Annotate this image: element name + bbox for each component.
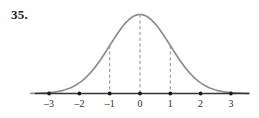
x-tick-dot (108, 92, 112, 96)
x-tick-dot (138, 92, 142, 96)
x-axis-tick-labels: –3–2–10123 (43, 98, 233, 109)
x-tick-dot (229, 92, 233, 96)
normal-curve-figure: 35. –3–2–10123 (0, 0, 259, 118)
x-tick-label: 3 (228, 98, 233, 109)
x-tick-label: –2 (73, 98, 84, 109)
x-tick-dot (78, 92, 82, 96)
x-tick-label: –3 (43, 98, 54, 109)
x-tick-label: 0 (138, 98, 143, 109)
x-tick-dot (168, 92, 172, 96)
x-tick-label: 1 (168, 98, 173, 109)
x-tick-label: 2 (198, 98, 203, 109)
dashed-lines-group (110, 14, 171, 93)
x-tick-dot (199, 92, 203, 96)
x-tick-label: –1 (104, 98, 115, 109)
normal-distribution-plot: –3–2–10123 (0, 0, 259, 118)
x-tick-dot (47, 92, 51, 96)
